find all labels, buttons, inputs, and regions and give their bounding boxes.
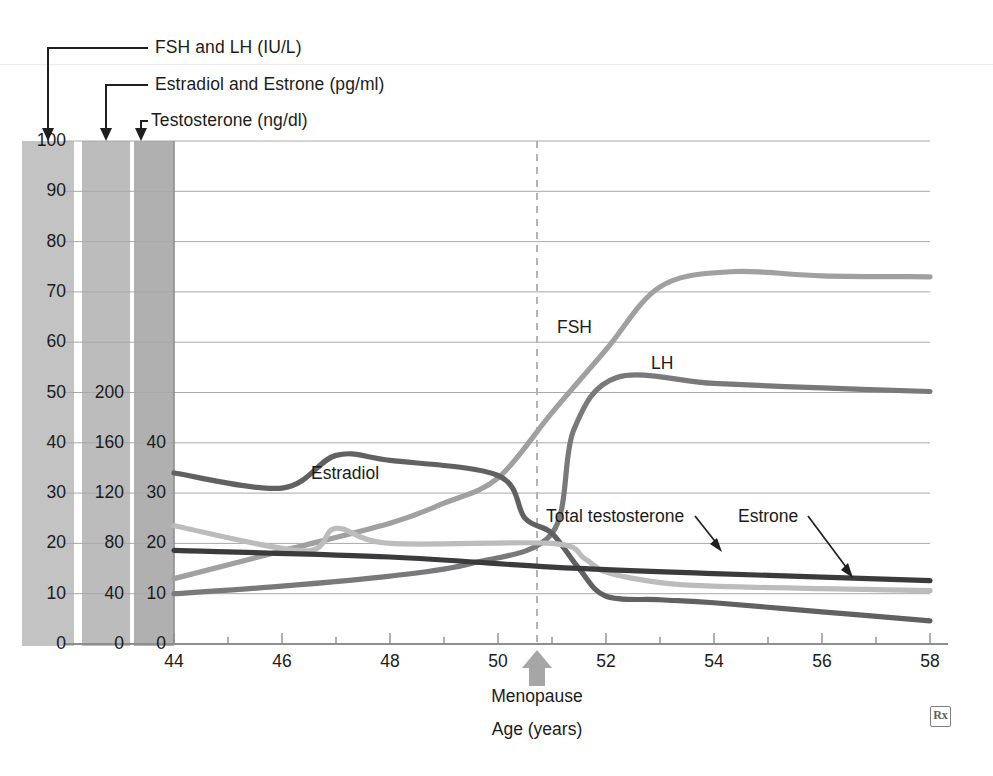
- axis-callout-fsh-lh: FSH and LH (IU/L): [155, 37, 302, 58]
- y-tick-label: 50: [22, 382, 66, 403]
- y-tick-label: 0: [80, 633, 124, 654]
- x-axis-ticks: [174, 633, 930, 644]
- y-tick-label: 30: [22, 482, 66, 503]
- y-tick-label: 60: [22, 331, 66, 352]
- y-tick-label: 70: [22, 281, 66, 302]
- y-tick-label: 90: [22, 180, 66, 201]
- data-series-layer: [174, 271, 930, 620]
- x-tick-label: 50: [478, 651, 518, 672]
- arrowhead-estradiol-estrone: [100, 128, 112, 141]
- x-tick-label: 46: [262, 651, 302, 672]
- x-tick-label: 54: [694, 651, 734, 672]
- y-tick-label: 40: [132, 432, 166, 453]
- menopause-arrow-icon: [522, 650, 552, 686]
- band-testosterone: [134, 141, 174, 646]
- gridlines: [64, 141, 930, 644]
- arrowhead-total-testosterone: [710, 538, 722, 552]
- axis-callout-testosterone: Testosterone (ng/dl): [151, 110, 308, 131]
- y-tick-label: 10: [22, 583, 66, 604]
- y-tick-label: 0: [22, 633, 66, 654]
- series-label-estrone: Estrone: [738, 506, 798, 527]
- y-tick-label: 100: [22, 130, 66, 151]
- y-tick-label: 20: [132, 532, 166, 553]
- x-tick-label: 52: [586, 651, 626, 672]
- y-tick-label: 30: [132, 482, 166, 503]
- y-tick-label: 40: [80, 583, 124, 604]
- hormone-levels-chart: FSH and LH (IU/L) Estradiol and Estrone …: [0, 0, 993, 776]
- y-tick-label: 200: [80, 382, 124, 403]
- series-label-estradiol: Estradiol: [311, 463, 379, 484]
- arrowhead-testosterone: [135, 128, 147, 141]
- menopause-label: Menopause: [467, 686, 607, 707]
- x-tick-label: 44: [154, 651, 194, 672]
- y-tick-label: 20: [22, 532, 66, 553]
- axis-callout-estradiol-estrone: Estradiol and Estrone (pg/ml): [155, 74, 385, 95]
- leader-fsh-lh: [48, 48, 148, 132]
- y-tick-label: 40: [22, 432, 66, 453]
- rx-watermark-icon: Rx: [930, 706, 951, 727]
- callout-leaders: [48, 48, 148, 132]
- series-line-lh: [174, 375, 930, 594]
- series-label-lh: LH: [651, 353, 673, 374]
- y-tick-label: 80: [80, 532, 124, 553]
- y-tick-label: 160: [80, 432, 124, 453]
- series-line-total-testosterone: [174, 550, 930, 580]
- y-tick-label: 120: [80, 482, 124, 503]
- series-label-fsh: FSH: [557, 317, 592, 338]
- x-tick-label: 48: [370, 651, 410, 672]
- x-tick-label: 58: [910, 651, 950, 672]
- y-tick-label: 80: [22, 231, 66, 252]
- y-tick-label: 10: [132, 583, 166, 604]
- x-axis-title: Age (years): [467, 719, 607, 740]
- x-tick-label: 56: [802, 651, 842, 672]
- series-label-total-testosterone: Total testosterone: [546, 506, 684, 527]
